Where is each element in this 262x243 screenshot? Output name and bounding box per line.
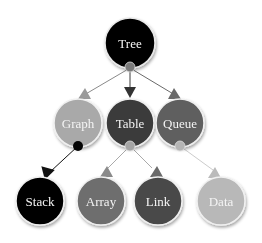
node-tree[interactable]: Tree [105,18,155,68]
node-label: Stack [26,194,55,209]
node-label: Graph [62,116,95,131]
edge-tree-graph [84,68,130,95]
node-data[interactable]: Data [197,177,245,225]
node-label: Table [116,116,145,131]
node-array[interactable]: Array [77,177,125,225]
node-queue[interactable]: Queue [156,99,204,147]
node-graph[interactable]: Graph [54,99,102,147]
connector-dot-queue [175,141,185,151]
node-label: Array [86,194,117,209]
arrowhead-graph [78,88,91,99]
node-stack[interactable]: Stack [16,177,64,225]
node-label: Link [146,194,171,209]
connector-dot-graph [73,141,83,151]
arrowhead-queue [168,88,181,99]
connector-dot-table [125,141,135,151]
arrowhead-table [124,87,136,98]
arrowhead-array [100,166,113,177]
node-label: Queue [163,116,197,131]
connector-dot-tree [125,62,135,72]
node-label: Tree [118,36,142,51]
edge-tree-queue [130,68,175,95]
edge-graph-stack [50,146,78,172]
node-table[interactable]: Table [106,99,154,147]
node-link[interactable]: Link [134,177,182,225]
node-label: Data [209,194,234,209]
tree-diagram: Tree Graph Table Queue Stack Array Link … [0,0,262,243]
edge-queue-data [180,146,213,170]
